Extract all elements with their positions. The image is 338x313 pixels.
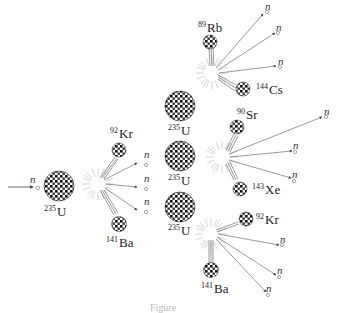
fragment-label: 144Cs	[256, 83, 283, 96]
mass-number: 235	[168, 223, 180, 232]
cesium-fragment	[236, 82, 250, 96]
krypton-fragment	[239, 212, 253, 226]
uranium-nucleus	[165, 192, 195, 222]
mass-number: 92	[256, 212, 264, 221]
mass-number: 235	[168, 173, 180, 182]
mass-number: 89	[198, 20, 206, 29]
neutron-label: n	[144, 196, 150, 207]
neutron-label: n	[278, 56, 284, 67]
fragment-label: 90Sr	[237, 108, 258, 121]
fragment-label: 141Ba	[201, 282, 228, 295]
fragment-label: 141Ba	[106, 236, 133, 249]
element-symbol: Rb	[207, 20, 222, 35]
neutron-label: n	[277, 265, 283, 276]
element-symbol: Cs	[269, 82, 283, 97]
mass-number: 90	[237, 107, 245, 116]
element-symbol: Xe	[265, 182, 280, 197]
mass-number: 141	[201, 281, 213, 290]
neutron-label: n	[266, 283, 272, 294]
element-symbol: Kr	[119, 126, 133, 141]
element-symbol: Sr	[246, 107, 258, 122]
nucleus-label: 235U	[44, 205, 66, 218]
nucleus-label: 235U	[168, 174, 190, 187]
uranium-nucleus	[165, 141, 195, 171]
element-symbol: U	[57, 204, 66, 219]
mass-number: 92	[110, 126, 118, 135]
neutron-label: n	[280, 234, 286, 245]
krypton-fragment	[112, 143, 126, 157]
figure-caption: Figure	[150, 302, 176, 313]
nucleus-label: 235U	[168, 124, 190, 137]
neutron-label: n	[144, 149, 150, 160]
fission-diagram	[0, 0, 338, 313]
fragment-label: 92Kr	[256, 213, 279, 226]
neutron-label: n	[30, 174, 36, 185]
neutron-label: n	[276, 22, 282, 33]
mass-number: 143	[252, 182, 264, 191]
mass-number: 144	[256, 82, 268, 91]
incoming-neutron-arrow	[8, 186, 40, 190]
element-symbol: U	[181, 223, 190, 238]
rubidium-fragment	[203, 35, 217, 49]
neutron-label: n	[144, 173, 150, 184]
neutron-label: n	[293, 140, 299, 151]
strontium-fragment	[230, 120, 244, 134]
fragment-label: 89Rb	[198, 21, 222, 34]
neutron-label: n	[292, 169, 298, 180]
element-symbol: U	[181, 123, 190, 138]
fragment-label: 92Kr	[110, 127, 133, 140]
neutron-label: n	[265, 1, 271, 12]
uranium-nucleus	[165, 91, 195, 121]
uranium-nucleus	[44, 171, 74, 201]
element-symbol: Ba	[119, 235, 133, 250]
neutron-label: n	[324, 106, 330, 117]
xenon-fragment	[233, 182, 247, 196]
mass-number: 141	[106, 235, 118, 244]
element-symbol: Kr	[265, 212, 279, 227]
element-symbol: U	[181, 173, 190, 188]
mass-number: 235	[168, 123, 180, 132]
nucleus-label: 235U	[168, 224, 190, 237]
barium-fragment	[112, 217, 127, 232]
fission-burst	[82, 168, 114, 200]
element-symbol: Ba	[214, 281, 228, 296]
mass-number: 235	[44, 204, 56, 213]
barium-fragment	[204, 263, 219, 278]
fragment-label: 143Xe	[252, 183, 280, 196]
